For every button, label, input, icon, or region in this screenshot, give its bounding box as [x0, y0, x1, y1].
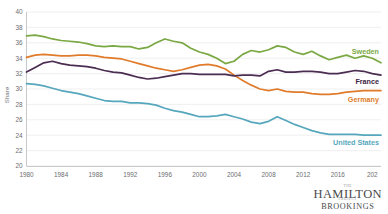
- y-tick-label: 20: [15, 162, 23, 169]
- x-tick-label: 1988: [89, 171, 104, 178]
- y-tick-label: 34: [15, 55, 23, 62]
- x-tick-label: 2000: [192, 171, 207, 178]
- y-tick-labels: 2022242628303234363840: [15, 8, 23, 169]
- x-tick-label: 2016: [331, 171, 346, 178]
- chart-figure: 2022242628303234363840 19801984198819921…: [0, 0, 388, 214]
- x-tick-labels: 1980198419881992199620002004200820122016…: [19, 171, 378, 178]
- series-label-germany: Germany: [348, 95, 379, 104]
- y-axis-title: Share: [3, 86, 10, 103]
- x-tick-label: 2012: [296, 171, 311, 178]
- x-tick-label: 1980: [19, 171, 34, 178]
- series-label-france: France: [355, 77, 379, 86]
- series-label-united-states: United States: [333, 138, 379, 147]
- line-chart: 2022242628303234363840 19801984198819921…: [0, 0, 388, 214]
- y-tick-label: 28: [15, 101, 23, 108]
- x-tick-label: 1996: [158, 171, 173, 178]
- x-tick-label: 2008: [261, 171, 276, 178]
- y-tick-label: 26: [15, 116, 23, 123]
- y-tick-label: 32: [15, 70, 23, 77]
- y-tick-label: 38: [15, 24, 23, 31]
- series-labels: SwedenGermanyFranceUnited States: [333, 47, 379, 147]
- series-line-united-states: [27, 84, 382, 136]
- x-tick-label: 202: [367, 171, 378, 178]
- y-tick-label: 30: [15, 85, 23, 92]
- y-tick-label: 24: [15, 132, 23, 139]
- series-lines: [27, 35, 382, 135]
- x-tick-label: 1984: [54, 171, 69, 178]
- y-tick-label: 40: [15, 8, 23, 15]
- y-tick-label: 22: [15, 147, 23, 154]
- x-tick-label: 1992: [123, 171, 138, 178]
- x-tick-label: 2004: [227, 171, 242, 178]
- logo-brookings-text: BROOKINGS: [314, 203, 382, 211]
- gridlines: [27, 12, 382, 166]
- hamilton-project-brookings-logo: THE HAMILTON PROJECT BROOKINGS: [314, 185, 382, 211]
- y-tick-label: 36: [15, 39, 23, 46]
- series-line-sweden: [27, 35, 382, 63]
- series-label-sweden: Sweden: [352, 47, 379, 56]
